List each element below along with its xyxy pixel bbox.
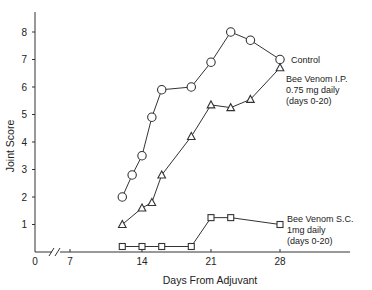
series-annotation: (days 0-20) bbox=[287, 236, 333, 246]
series-line bbox=[122, 68, 280, 225]
joint-score-chart: 1234567807142128 ControlBee Venom I.P.0.… bbox=[0, 0, 372, 290]
square-marker bbox=[159, 244, 165, 250]
series-annotation: (days 0-20) bbox=[286, 96, 332, 106]
square-marker bbox=[208, 215, 214, 221]
triangle-marker bbox=[276, 64, 284, 71]
series-layer: ControlBee Venom I.P.0.75 mg daily(days … bbox=[118, 28, 353, 250]
y-tick-label: 4 bbox=[21, 137, 27, 148]
series-annotation: Bee Venom I.P. bbox=[286, 74, 347, 84]
series-circle: Control bbox=[118, 28, 320, 201]
circle-marker bbox=[148, 113, 156, 121]
circle-marker bbox=[246, 36, 254, 44]
x-tick-label: 14 bbox=[136, 256, 148, 267]
x-tick-label: 0 bbox=[32, 256, 38, 267]
x-axis-title: Days From Adjuvant bbox=[163, 274, 258, 286]
y-tick-label: 6 bbox=[21, 82, 27, 93]
series-annotation: Control bbox=[291, 55, 320, 65]
square-marker bbox=[228, 215, 234, 221]
circle-marker bbox=[158, 86, 166, 94]
square-marker bbox=[119, 244, 125, 250]
circle-marker bbox=[276, 55, 284, 63]
triangle-marker bbox=[138, 204, 146, 211]
square-marker bbox=[277, 222, 283, 228]
y-tick-label: 8 bbox=[21, 27, 27, 38]
circle-marker bbox=[207, 58, 215, 66]
triangle-marker bbox=[187, 133, 195, 140]
x-tick-label: 21 bbox=[205, 256, 217, 267]
y-axis-title: Joint Score bbox=[4, 120, 16, 173]
y-tick-label: 5 bbox=[21, 109, 27, 120]
series-annotation: 1mg daily bbox=[287, 225, 326, 235]
y-tick-label: 3 bbox=[21, 164, 27, 175]
x-tick-label: 28 bbox=[274, 256, 286, 267]
series-triangle: Bee Venom I.P.0.75 mg daily(days 0-20) bbox=[118, 64, 347, 228]
x-tick-label: 7 bbox=[67, 256, 73, 267]
circle-marker bbox=[128, 171, 136, 179]
square-marker bbox=[139, 244, 145, 250]
y-tick-label: 1 bbox=[21, 219, 27, 230]
y-tick-label: 7 bbox=[21, 54, 27, 65]
series-annotation: 0.75 mg daily bbox=[286, 85, 340, 95]
circle-marker bbox=[118, 193, 126, 201]
circle-marker bbox=[227, 28, 235, 36]
square-marker bbox=[188, 244, 194, 250]
circle-marker bbox=[187, 83, 195, 91]
series-line bbox=[122, 32, 280, 197]
triangle-marker bbox=[207, 101, 215, 108]
triangle-marker bbox=[118, 221, 126, 228]
series-line bbox=[122, 218, 280, 247]
circle-marker bbox=[138, 152, 146, 160]
y-tick-label: 2 bbox=[21, 192, 27, 203]
series-square: Bee Venom S.C.1mg daily(days 0-20) bbox=[119, 214, 353, 250]
axis-break-mark bbox=[55, 248, 60, 256]
series-annotation: Bee Venom S.C. bbox=[287, 214, 354, 224]
triangle-marker bbox=[148, 199, 156, 206]
